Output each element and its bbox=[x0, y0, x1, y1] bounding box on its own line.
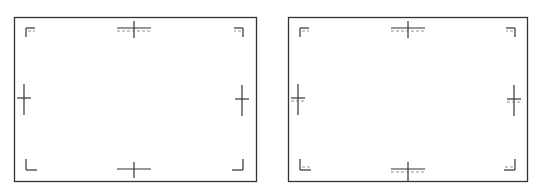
corner-mark-tr bbox=[506, 28, 515, 37]
cross-mark-left bbox=[291, 84, 305, 115]
frame-border bbox=[289, 18, 528, 182]
frame-border bbox=[15, 18, 257, 182]
corner-mark-br bbox=[232, 159, 243, 170]
cross-mark-top bbox=[117, 21, 151, 38]
corner-mark-tl bbox=[300, 28, 309, 37]
cross-mark-bottom bbox=[117, 162, 151, 178]
diagram-right bbox=[289, 18, 528, 182]
cross-mark-bottom bbox=[391, 162, 425, 181]
diagram-left bbox=[15, 18, 257, 182]
diagram-canvas bbox=[0, 0, 540, 194]
corner-mark-br bbox=[504, 159, 515, 170]
cross-mark-top bbox=[391, 21, 425, 38]
cross-mark-left bbox=[17, 84, 31, 115]
corner-mark-bl bbox=[26, 159, 37, 170]
cross-mark-right bbox=[235, 85, 249, 116]
cross-mark-right bbox=[507, 85, 521, 116]
corner-mark-tl bbox=[26, 28, 35, 37]
corner-mark-bl bbox=[300, 159, 311, 170]
corner-mark-tr bbox=[234, 28, 243, 37]
registration-marks-figure bbox=[0, 0, 540, 194]
